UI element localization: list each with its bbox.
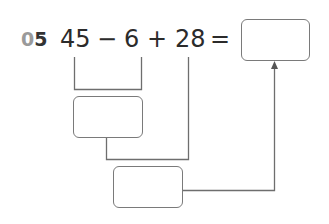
connector-final-to-answer: [183, 68, 275, 191]
connector-lines: [0, 0, 329, 224]
connector-intermediate-to-28: [107, 57, 189, 160]
arrowhead-icon: [271, 61, 278, 69]
bracket-45-minus-6: [75, 57, 142, 90]
